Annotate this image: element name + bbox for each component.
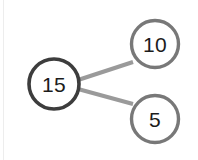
whole-value-label: 15 xyxy=(30,74,78,95)
connector-line-to-10 xyxy=(78,62,133,80)
connector-line-to-5 xyxy=(78,89,133,104)
number-bond-diagram: 15 10 5 xyxy=(0,0,198,160)
part-value-label-10: 10 xyxy=(131,34,179,55)
part-value-label-5: 5 xyxy=(131,109,179,130)
